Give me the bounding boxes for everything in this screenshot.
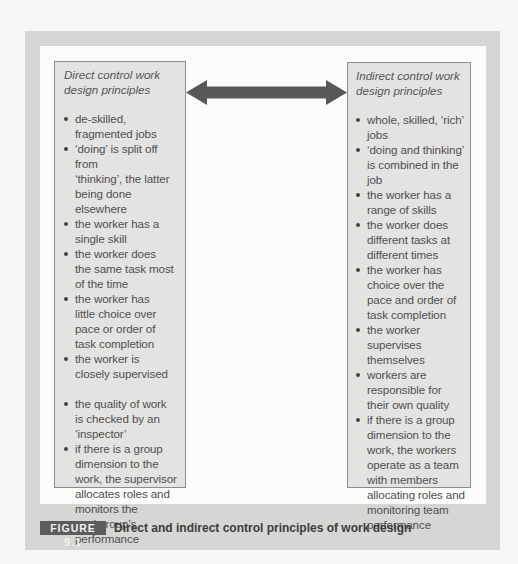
bullet-icon xyxy=(64,297,68,301)
line: the quality of work xyxy=(75,396,181,411)
line: fragmented jobs xyxy=(75,126,181,141)
list-item: if there is a group dimension to the wor… xyxy=(356,412,466,532)
line: the worker is xyxy=(75,351,181,366)
line: supervises xyxy=(367,337,466,352)
list-item: de-skilled, fragmented jobs xyxy=(64,111,181,141)
line: the worker has a xyxy=(75,216,181,231)
line: single skill xyxy=(75,231,181,246)
line: the worker does xyxy=(367,217,466,232)
line: is combined in the xyxy=(367,157,466,172)
line: if there is a group xyxy=(75,441,181,456)
line: is checked by an xyxy=(75,411,181,426)
line: choice over the xyxy=(367,277,466,292)
list-item: the worker supervises themselves xyxy=(356,322,466,367)
line: ‘doing and thinking’ xyxy=(367,142,466,157)
indirect-control-title: Indirect control work design principles xyxy=(356,68,466,98)
line: task completion xyxy=(75,336,181,351)
direct-control-box: Direct control work design principles de… xyxy=(54,61,186,488)
line: allocating roles and xyxy=(367,487,466,502)
direct-control-title: Direct control work design principles xyxy=(64,67,181,97)
list-item: ‘doing and thinking’ is combined in the … xyxy=(356,142,466,187)
line: responsible for xyxy=(367,382,466,397)
title-line: design principles xyxy=(64,82,181,97)
line: the worker xyxy=(367,322,466,337)
list-item: the worker does different tasks at diffe… xyxy=(356,217,466,262)
list-item: the worker is closely supervised xyxy=(64,351,181,381)
bullet-icon xyxy=(64,222,68,226)
line: de-skilled, xyxy=(75,111,181,126)
list-item: the worker has little choice over pace o… xyxy=(64,291,181,351)
line: being done elsewhere xyxy=(75,186,181,216)
bullet-icon xyxy=(64,402,68,406)
bullet-icon xyxy=(356,148,360,152)
line: operate as a team xyxy=(367,457,466,472)
line: their own quality xyxy=(367,397,466,412)
list-item: the worker has choice over the pace and … xyxy=(356,262,466,322)
line: allocates roles and xyxy=(75,486,181,501)
direct-control-list: de-skilled, fragmented jobs ‘doing’ is s… xyxy=(64,111,181,546)
list-item: the worker has a range of skills xyxy=(356,187,466,217)
line: closely supervised xyxy=(75,366,181,381)
line: with members xyxy=(367,472,466,487)
line: the worker does xyxy=(75,246,181,261)
line: whole, skilled, ‘rich’ xyxy=(367,112,466,127)
line: different tasks at xyxy=(367,232,466,247)
list-item: the quality of work is checked by an ‘in… xyxy=(64,396,181,441)
line: workers are xyxy=(367,367,466,382)
list-item: the worker does the same task most of th… xyxy=(64,246,181,291)
line: job xyxy=(367,172,466,187)
line: themselves xyxy=(367,352,466,367)
line: ‘doing’ is split off from xyxy=(75,141,181,171)
bullet-icon xyxy=(356,118,360,122)
line: monitors the xyxy=(75,501,181,516)
line: the worker has xyxy=(75,291,181,306)
line: task completion xyxy=(367,307,466,322)
title-line: Indirect control work xyxy=(356,68,466,83)
line: range of skills xyxy=(367,202,466,217)
line: work, the supervisor xyxy=(75,471,181,486)
line: the worker has a xyxy=(367,187,466,202)
line: of the time xyxy=(75,276,181,291)
bullet-icon xyxy=(64,252,68,256)
bullet-icon xyxy=(356,373,360,377)
title-line: Direct control work xyxy=(64,67,181,82)
bullet-icon xyxy=(64,117,68,121)
bullet-icon xyxy=(356,223,360,227)
title-line: design principles xyxy=(356,83,466,98)
line: jobs xyxy=(367,127,466,142)
line: different times xyxy=(367,247,466,262)
bullet-icon xyxy=(64,147,68,151)
indirect-control-box: Indirect control work design principles … xyxy=(347,62,471,488)
bullet-icon xyxy=(64,357,68,361)
line: dimension to the xyxy=(75,456,181,471)
line: the same task most xyxy=(75,261,181,276)
indirect-control-list: whole, skilled, ‘rich’ jobs ‘doing and t… xyxy=(356,112,466,532)
line: pace or order of xyxy=(75,321,181,336)
line: monitoring team xyxy=(367,502,466,517)
bullet-icon xyxy=(64,447,68,451)
bullet-icon xyxy=(356,268,360,272)
line: work, the workers xyxy=(367,442,466,457)
figure-caption: FIGURE 9.1 Direct and indirect control p… xyxy=(40,521,411,535)
line: pace and order of xyxy=(367,292,466,307)
bullet-icon xyxy=(356,193,360,197)
list-item: workers are responsible for their own qu… xyxy=(356,367,466,412)
figure-caption-text: Direct and indirect control principles o… xyxy=(114,521,411,535)
line: dimension to the xyxy=(367,427,466,442)
bullet-icon xyxy=(356,418,360,422)
list-item: the worker has a single skill xyxy=(64,216,181,246)
figure-label: FIGURE 9.1 xyxy=(40,521,106,535)
line: little choice over xyxy=(75,306,181,321)
list-item: whole, skilled, ‘rich’ jobs xyxy=(356,112,466,142)
double-arrow-icon xyxy=(186,80,347,105)
bullet-icon xyxy=(356,328,360,332)
list-item: ‘doing’ is split off from ‘thinking’, th… xyxy=(64,141,181,216)
line: ‘inspector’ xyxy=(75,426,181,441)
line: if there is a group xyxy=(367,412,466,427)
line: ‘thinking’, the latter xyxy=(75,171,181,186)
line: the worker has xyxy=(367,262,466,277)
